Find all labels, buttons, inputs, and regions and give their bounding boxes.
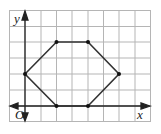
y-axis-arrow-icon bbox=[22, 11, 28, 20]
x-axis-label: x bbox=[137, 108, 143, 121]
origin-label: O bbox=[15, 108, 24, 121]
axes bbox=[10, 11, 150, 121]
y-axis-label: y bbox=[14, 12, 20, 25]
